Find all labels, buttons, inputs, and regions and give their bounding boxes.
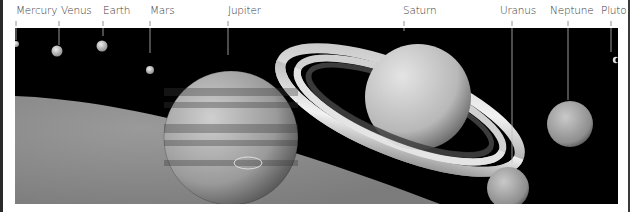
- venus-icon: [52, 46, 63, 57]
- uranus-icon: [487, 167, 529, 209]
- mercury-icon: [13, 41, 19, 47]
- solar-system-illustration: [0, 0, 636, 212]
- earth-icon: [97, 41, 108, 52]
- pluto-icon: [613, 57, 621, 63]
- mars-icon: [146, 66, 154, 74]
- neptune-icon: [547, 101, 593, 147]
- jupiter-icon: [164, 71, 298, 205]
